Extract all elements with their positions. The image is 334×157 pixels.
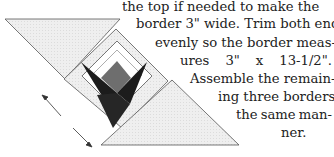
word: x: [256, 53, 263, 69]
text-line-3: evenly so the border meas-: [155, 35, 332, 51]
text-line-8: ner.: [281, 125, 306, 141]
arrow-up-left-icon: [42, 95, 61, 116]
word: 13-1/2".: [279, 53, 332, 69]
word: same: [261, 107, 296, 123]
text-line-5: Assemble the remain-: [190, 71, 332, 87]
text-line-7: the same man-: [236, 107, 332, 123]
text-line-1: the top if needed to make the: [122, 0, 332, 15]
text-line-2: border 3" wide. Trim both ends: [136, 16, 332, 32]
text-line-6: ing three borders in: [218, 89, 332, 105]
text-line-4: ures 3" x 13-1/2".: [180, 53, 332, 69]
word: the: [236, 107, 258, 123]
word: 3": [225, 53, 239, 69]
arrow-down-right-icon: [73, 128, 92, 147]
word: ures: [180, 53, 209, 69]
word: man-: [299, 107, 332, 123]
